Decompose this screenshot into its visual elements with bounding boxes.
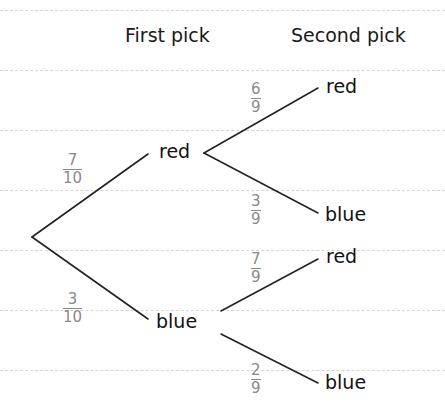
probability-blue-red: 7 9 (251, 252, 261, 285)
probability-first-blue: 3 10 (63, 292, 82, 325)
numerator: 7 (251, 252, 261, 268)
node-second-blue-blue: blue (325, 373, 366, 392)
numerator: 6 (251, 82, 261, 98)
branch-red-red (204, 88, 318, 153)
probability-first-red: 7 10 (63, 153, 82, 186)
numerator: 3 (68, 292, 78, 308)
numerator: 2 (251, 363, 261, 379)
numerator: 7 (68, 153, 78, 169)
numerator: 3 (251, 194, 261, 210)
denominator: 9 (251, 211, 261, 227)
branch-root-blue (32, 237, 148, 319)
probability-blue-blue: 2 9 (251, 363, 261, 396)
denominator: 10 (63, 309, 82, 325)
node-second-blue-red: red (326, 247, 357, 266)
node-first-blue: blue (156, 312, 197, 331)
node-second-red-blue: blue (325, 205, 366, 224)
branch-blue-red (221, 259, 318, 311)
denominator: 9 (251, 99, 261, 115)
denominator: 10 (63, 170, 82, 186)
branch-root-red (32, 154, 148, 237)
node-first-red: red (159, 142, 190, 161)
probability-red-blue: 3 9 (251, 194, 261, 227)
probability-red-red: 6 9 (251, 82, 261, 115)
branch-blue-blue (221, 334, 318, 383)
tree-branches (0, 0, 445, 415)
denominator: 9 (251, 380, 261, 396)
denominator: 9 (251, 269, 261, 285)
node-second-red-red: red (326, 77, 357, 96)
branch-red-blue (204, 153, 318, 213)
